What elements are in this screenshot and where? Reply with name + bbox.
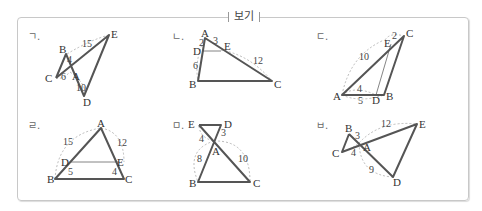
panel-marker: ㄹ. <box>28 120 40 131</box>
length-2: 2 <box>392 30 397 41</box>
length-15: 15 <box>82 38 92 49</box>
panel-mieum: ㅁ. E D A B C 4 3 8 10 <box>172 118 260 189</box>
panel-marker: ㅂ. <box>316 120 328 131</box>
geometry-figures: ㄱ. B C A D E 15 4 6 10 ㄴ. A D E B C 2 3 … <box>0 0 482 211</box>
point-a: A <box>97 117 105 129</box>
point-d: D <box>393 176 401 188</box>
panel-rieul: ㄹ. A D E B C 15 12 5 4 <box>28 117 132 185</box>
point-b: B <box>345 122 352 134</box>
point-b: B <box>386 90 393 102</box>
point-a: A <box>72 70 80 82</box>
point-d: D <box>372 94 380 106</box>
length-12: 12 <box>381 118 391 129</box>
panel-marker: ㄱ. <box>28 31 40 42</box>
length-12: 12 <box>253 55 263 66</box>
point-c: C <box>332 147 339 159</box>
length-12: 12 <box>117 137 127 148</box>
panel-giyeok: ㄱ. B C A D E 15 4 6 10 <box>28 28 118 108</box>
arc-ae <box>342 40 384 95</box>
point-b: B <box>47 173 54 185</box>
length-5: 5 <box>68 166 73 177</box>
length-4: 4 <box>357 83 362 94</box>
length-6: 6 <box>61 71 66 82</box>
point-b: B <box>59 43 66 55</box>
panel-marker: ㄷ. <box>316 31 328 42</box>
length-10: 10 <box>76 82 86 93</box>
panel-nieun: ㄴ. A D E B C 2 3 6 12 <box>172 27 281 90</box>
length-4: 4 <box>351 147 356 158</box>
length-10: 10 <box>238 153 248 164</box>
length-4: 4 <box>67 54 72 65</box>
panel-marker: ㄴ. <box>172 31 184 42</box>
point-e: E <box>117 156 124 168</box>
point-b: B <box>189 177 196 189</box>
panel-digeut: ㄷ. C E A B D 2 10 4 5 <box>316 27 413 106</box>
panel-marker: ㅁ. <box>172 120 184 131</box>
point-a: A <box>363 141 371 153</box>
point-e: E <box>111 28 118 40</box>
figure-digeut <box>342 36 404 95</box>
length-4: 4 <box>112 166 117 177</box>
panel-bieup: ㅂ. B C A D E 3 12 4 9 <box>316 118 426 188</box>
point-c: C <box>406 27 413 39</box>
length-6: 6 <box>193 60 198 71</box>
length-2: 2 <box>199 37 204 48</box>
point-e: E <box>188 118 195 130</box>
length-3: 3 <box>221 127 226 138</box>
length-5: 5 <box>358 95 363 106</box>
point-e: E <box>224 40 231 52</box>
length-3: 3 <box>213 35 218 46</box>
length-10: 10 <box>359 51 369 62</box>
point-a: A <box>333 90 341 102</box>
point-d: D <box>83 96 91 108</box>
point-c: C <box>253 177 260 189</box>
point-a: A <box>212 145 220 157</box>
length-15: 15 <box>63 136 73 147</box>
length-9: 9 <box>369 164 374 175</box>
length-8: 8 <box>197 153 202 164</box>
length-3: 3 <box>355 130 360 141</box>
point-b: B <box>189 78 196 90</box>
point-e: E <box>384 37 391 49</box>
point-c: C <box>45 72 52 84</box>
length-4: 4 <box>199 133 204 144</box>
point-c: C <box>125 173 132 185</box>
point-c: C <box>274 78 281 90</box>
point-e: E <box>419 118 426 130</box>
